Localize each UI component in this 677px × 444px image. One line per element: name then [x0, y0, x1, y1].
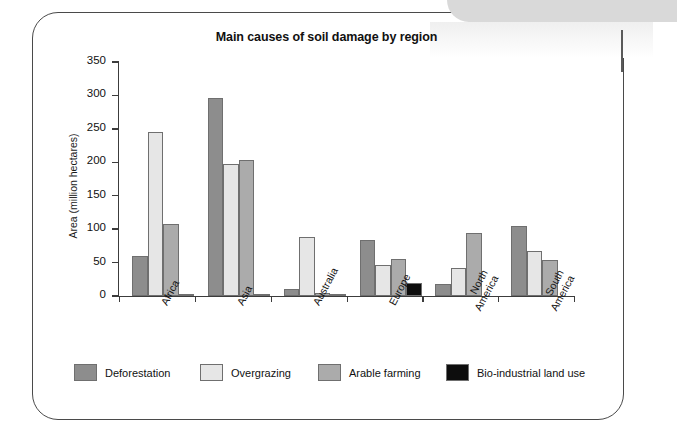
y-tick-mark	[112, 162, 118, 163]
chart-title: Main causes of soil damage by region	[0, 30, 653, 44]
y-tick-mark	[112, 95, 118, 96]
y-tick-label: 150	[36, 188, 106, 200]
bar	[299, 237, 315, 297]
legend-swatch	[200, 364, 223, 381]
bar	[527, 251, 543, 296]
legend-label: Arable farming	[349, 367, 421, 379]
legend-item: Bio-industrial land use	[446, 364, 585, 381]
y-tick-mark	[112, 195, 118, 196]
y-tick-mark	[112, 262, 118, 263]
x-tick-mark	[498, 296, 499, 302]
y-tick-mark	[112, 295, 118, 296]
chart-legend: DeforestationOvergrazingArable farmingBi…	[74, 364, 594, 390]
y-tick-label: 50	[36, 255, 106, 267]
x-tick-mark	[574, 296, 575, 302]
bar	[223, 164, 239, 296]
y-tick-label: 200	[36, 154, 106, 166]
x-tick-mark	[271, 296, 272, 302]
bar	[330, 294, 346, 296]
bar	[284, 289, 300, 296]
bar	[132, 256, 148, 296]
x-tick-mark	[422, 296, 423, 302]
legend-label: Overgrazing	[231, 367, 291, 379]
bar	[435, 284, 451, 296]
y-tick-label: 350	[36, 54, 106, 66]
y-tick-label: 300	[36, 87, 106, 99]
legend-swatch	[74, 364, 97, 381]
y-tick-mark	[112, 128, 118, 129]
y-tick-mark	[112, 61, 118, 62]
legend-swatch	[446, 364, 469, 381]
y-tick-label: 100	[36, 221, 106, 233]
x-tick-mark	[195, 296, 196, 302]
bar	[239, 160, 255, 296]
legend-swatch	[318, 364, 341, 381]
legend-label: Deforestation	[105, 367, 170, 379]
scan-overlay-panel	[447, 0, 677, 22]
legend-item: Overgrazing	[200, 364, 291, 381]
legend-item: Arable farming	[318, 364, 421, 381]
legend-item: Deforestation	[74, 364, 170, 381]
bar	[254, 294, 270, 296]
bar	[208, 98, 224, 296]
legend-label: Bio-industrial land use	[477, 367, 585, 379]
y-tick-label: 0	[36, 288, 106, 300]
y-tick-mark	[112, 228, 118, 229]
x-tick-mark	[347, 296, 348, 302]
bar	[179, 294, 195, 296]
bar	[148, 132, 164, 296]
bar	[511, 226, 527, 296]
x-tick-mark	[119, 296, 120, 302]
y-tick-label: 250	[36, 121, 106, 133]
bar	[360, 240, 376, 296]
plot-area	[119, 62, 574, 296]
bar	[375, 265, 391, 296]
bar	[451, 268, 467, 296]
